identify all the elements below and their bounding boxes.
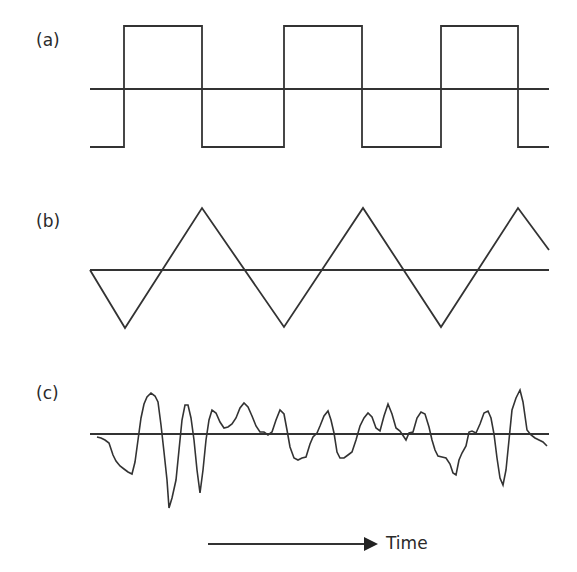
waveform-diagram	[0, 0, 577, 572]
time-arrow-head-icon	[364, 537, 378, 551]
square-wave	[90, 26, 549, 147]
irregular-wave	[97, 390, 547, 508]
time-axis-label: Time	[386, 533, 428, 553]
triangle-wave	[90, 208, 549, 328]
